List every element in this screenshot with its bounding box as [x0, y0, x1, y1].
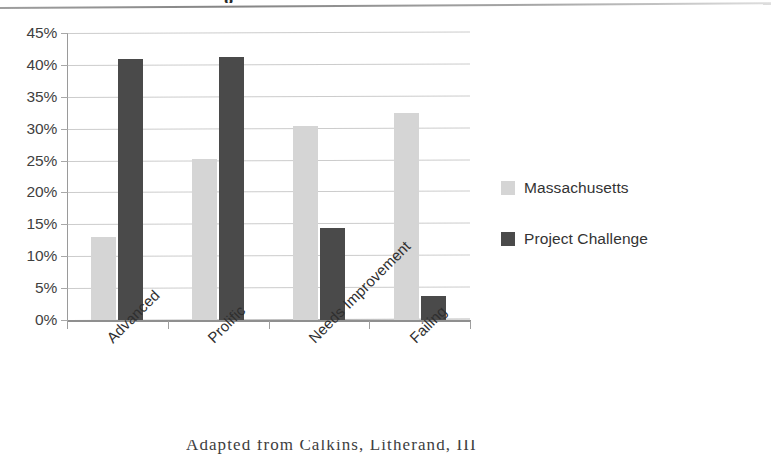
bar [118, 59, 143, 320]
y-axis-tick [61, 192, 68, 193]
y-axis-tick-label: 20% [9, 183, 57, 201]
y-axis-labels: 0%5%10%15%20%25%30%35%40%45% [0, 12, 57, 412]
legend-label: Massachusetts [524, 179, 629, 197]
y-axis-tick [61, 65, 68, 66]
y-axis-tick-label: 40% [9, 56, 57, 74]
x-axis-tick [470, 321, 471, 329]
bar [192, 159, 217, 320]
x-axis-tick [67, 321, 68, 329]
gridline [67, 31, 470, 34]
y-axis-tick [61, 97, 68, 98]
y-axis-tick-label: 5% [9, 279, 57, 297]
y-axis-tick-label: 35% [9, 88, 57, 106]
y-axis-tick [61, 33, 68, 34]
y-axis-tick-label: 25% [9, 152, 57, 170]
legend-item: Massachusetts [501, 179, 731, 197]
y-axis-line [67, 33, 68, 321]
y-axis-tick-label: 45% [9, 24, 57, 42]
legend-item: Project Challenge [501, 230, 731, 248]
y-axis-tick-label: 30% [9, 120, 57, 138]
page-title-fragment: g [224, 0, 234, 3]
plot-area [67, 33, 470, 320]
legend-swatch-icon [501, 232, 515, 246]
x-axis-tick [269, 321, 270, 329]
y-axis-tick [61, 161, 68, 162]
x-axis-tick [369, 321, 370, 329]
y-axis-tick-label: 15% [9, 215, 57, 233]
bar [293, 126, 318, 320]
legend-swatch-icon [501, 181, 515, 195]
bar [91, 237, 116, 320]
legend-label: Project Challenge [524, 230, 648, 248]
x-axis-tick [168, 321, 169, 329]
y-axis-tick [61, 288, 68, 289]
footer-caption: Adapted from Calkins, Litherand, III [186, 440, 606, 455]
y-axis-tick [61, 224, 68, 225]
bar [219, 57, 244, 320]
bar [394, 113, 419, 320]
chart-legend: MassachusettsProject Challenge [501, 179, 731, 281]
scan-page-rule [0, 2, 771, 9]
y-axis-tick [61, 256, 68, 257]
y-axis-tick-label: 10% [9, 247, 57, 265]
page-footer-fragment: Adapted from Calkins, Litherand, III [186, 440, 606, 455]
y-axis-tick-label: 0% [9, 311, 57, 329]
y-axis-tick [61, 129, 68, 130]
bar-chart: 0%5%10%15%20%25%30%35%40%45% AdvancedPro… [0, 12, 771, 412]
